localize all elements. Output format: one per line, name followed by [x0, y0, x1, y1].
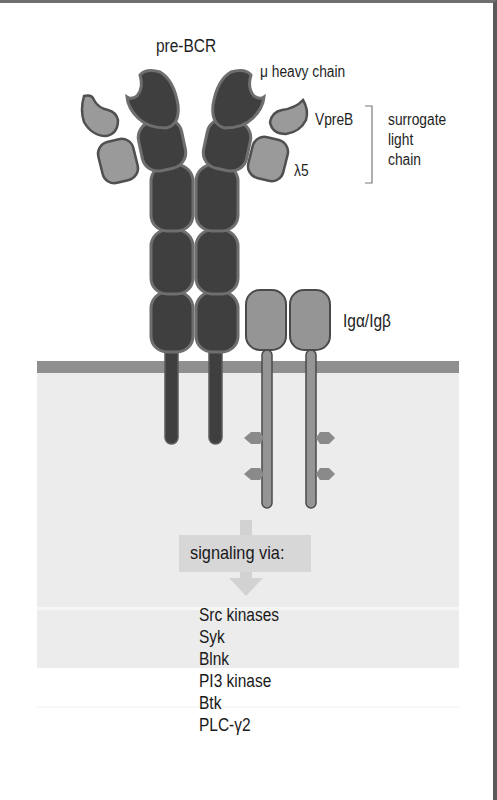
molecule-item: Btk: [199, 692, 279, 714]
vpreb-right: [270, 100, 307, 134]
lambda5-right: [245, 134, 290, 183]
surrogate-label-line2: light: [388, 132, 413, 148]
pre-bcr-title: pre-BCR: [156, 37, 216, 55]
cell-membrane: [37, 361, 459, 373]
vpreb-label: VpreB: [315, 112, 353, 128]
surrogate-label-line3: chain: [388, 152, 421, 168]
lambda5-label: λ5: [294, 163, 309, 179]
signaling-molecule-list: Src kinases Syk Blnk PI3 kinase Btk PLC-…: [199, 604, 292, 736]
vpreb-left: [82, 96, 118, 137]
surrogate-label-line1: surrogate: [388, 112, 446, 128]
molecule-item: Blnk: [199, 648, 279, 670]
lambda5-left: [95, 136, 140, 185]
molecule-item: Syk: [199, 626, 279, 648]
molecule-item: PI3 kinase: [199, 670, 279, 692]
heavy-chain-label: μ heavy chain: [260, 64, 345, 80]
ig-alpha-beta-label: Igα/Igβ: [343, 312, 391, 330]
molecule-item: PLC-γ2: [199, 714, 279, 736]
signaling-header: signaling via:: [190, 542, 284, 564]
molecule-item: Src kinases: [199, 604, 279, 626]
surrogate-bracket: [365, 106, 372, 183]
